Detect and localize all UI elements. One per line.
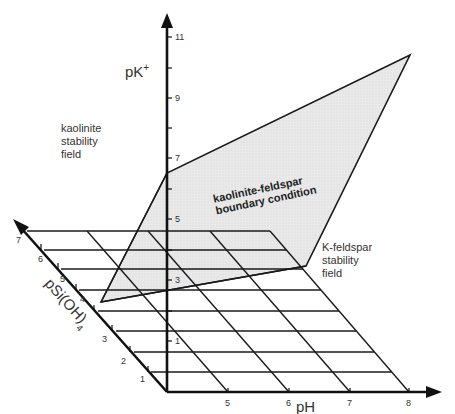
pk-tick-7: 7	[175, 153, 180, 163]
ph-axis-label: pH	[296, 398, 315, 414]
ph-tick-5: 5	[225, 398, 230, 408]
ph-tick-7: 7	[347, 398, 352, 408]
pk-tick-5: 5	[175, 214, 180, 224]
ph-axis-arrow-icon	[426, 386, 442, 398]
pk-axis-label: pK+	[125, 60, 149, 80]
ph-tick-6: 6	[286, 398, 291, 408]
pk-tick-1: 1	[175, 336, 180, 346]
pk-tick-11: 11	[175, 32, 184, 42]
kaolinite-stability-label: kaolinite stability field	[61, 122, 101, 161]
psi-tick-2: 2	[121, 356, 126, 366]
ph-tick-8: 8	[406, 398, 411, 408]
k-feldspar-stability-label: K-feldspar stability field	[322, 241, 372, 280]
psi-axis-label-sub: 4	[74, 323, 85, 333]
psi-tick-3: 3	[102, 334, 107, 344]
pk-tick-9: 9	[175, 93, 180, 103]
pk-tick-3: 3	[175, 275, 180, 285]
psi-tick-7: 7	[16, 235, 21, 245]
psi-tick-1: 1	[140, 374, 145, 384]
pk-axis-arrow-icon	[161, 13, 173, 28]
psi-tick-6: 6	[38, 254, 43, 264]
